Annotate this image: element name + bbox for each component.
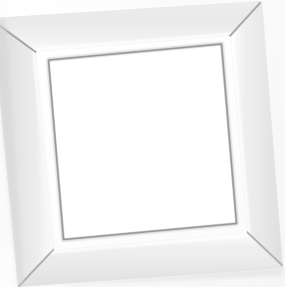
frame-opening — [50, 46, 235, 238]
picture-frame-photo — [0, 0, 285, 287]
photo-canvas: A white square picture frame with a wide… — [0, 0, 285, 287]
